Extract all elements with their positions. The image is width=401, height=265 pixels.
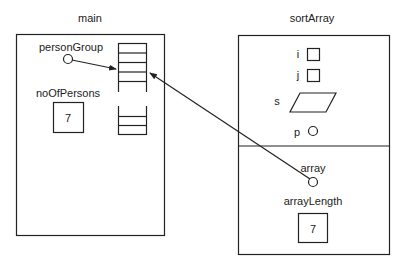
j-box [308, 70, 320, 82]
person-group-pointer-icon [64, 55, 73, 64]
no-of-persons-label: noOfPersons [36, 87, 101, 99]
array-length-label: arrayLength [284, 195, 343, 207]
stack-frame-diagram: main personGroup noOfPersons 7 sortArray… [0, 0, 401, 265]
i-box [308, 49, 320, 61]
person-group-array [119, 43, 147, 135]
array-param-arrow [150, 73, 310, 179]
main-frame: main personGroup noOfPersons 7 [17, 12, 165, 236]
no-of-persons-value: 7 [65, 112, 71, 124]
s-struct-shape [290, 93, 336, 112]
array-param-label: array [300, 162, 326, 174]
p-label: p [294, 126, 300, 138]
array-length-value: 7 [310, 223, 316, 235]
sort-array-frame: sortArray i j s p array arrayLength 7 [239, 12, 390, 255]
p-pointer-icon [309, 127, 318, 136]
person-group-label: personGroup [39, 41, 103, 53]
sort-array-frame-title: sortArray [290, 12, 335, 24]
i-label: i [297, 48, 299, 60]
main-frame-title: main [78, 12, 102, 24]
s-label: s [274, 95, 280, 107]
j-label: j [296, 69, 299, 81]
person-group-arrow [72, 60, 116, 69]
